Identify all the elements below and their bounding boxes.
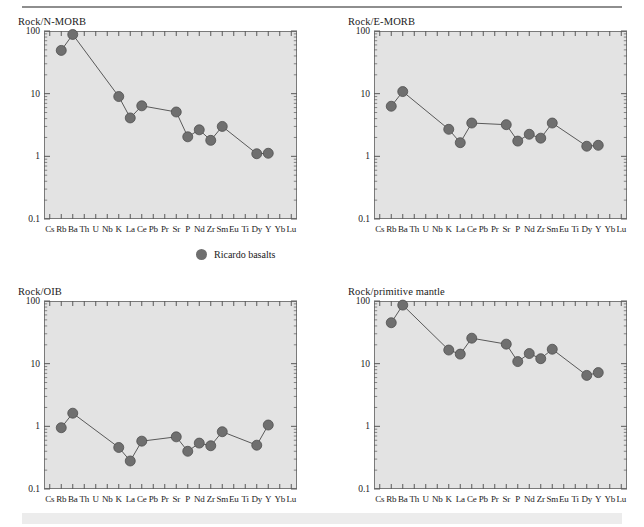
x-tick-label: Dy	[251, 494, 262, 504]
x-tick-label: Ba	[398, 494, 408, 504]
x-tick-label: La	[456, 224, 465, 234]
x-tick-label: Pb	[149, 224, 158, 234]
x-tick-label: Y	[595, 224, 601, 234]
x-tick-label: Cs	[375, 224, 384, 234]
x-tick-label: Yb	[274, 494, 285, 504]
x-tick-label: Pr	[161, 494, 169, 504]
x-tick-label: La	[456, 494, 465, 504]
data-point	[524, 349, 534, 359]
data-point	[501, 120, 511, 130]
legend-label: Ricardo basalts	[214, 249, 275, 260]
x-tick-label: Eu	[229, 494, 239, 504]
series-line	[61, 413, 268, 461]
x-tick-label: K	[446, 494, 452, 504]
x-tick-label: Zr	[537, 494, 545, 504]
data-point	[114, 442, 124, 452]
x-tick-label: Nb	[102, 224, 113, 234]
plot-canvas	[374, 301, 629, 491]
x-tick-label: Rb	[56, 494, 66, 504]
x-tick-label: La	[126, 224, 135, 234]
figure-legend: Ricardo basalts	[196, 249, 275, 260]
data-point	[68, 408, 78, 418]
x-tick-label: Lu	[286, 494, 296, 504]
y-tick-label: 10	[361, 89, 371, 99]
x-tick-label: Ce	[137, 494, 147, 504]
x-tick-label: Rb	[386, 224, 396, 234]
x-tick-label: Lu	[286, 224, 296, 234]
data-point	[56, 423, 66, 433]
data-point	[444, 124, 454, 134]
x-tick-label: Pr	[491, 224, 499, 234]
data-point	[593, 140, 603, 150]
x-tick-label: Sr	[172, 224, 180, 234]
y-tick-label: 10	[31, 89, 41, 99]
x-tick-label: Yb	[604, 494, 615, 504]
x-tick-label: K	[116, 224, 122, 234]
data-point	[398, 87, 408, 97]
x-tick-label: Y	[595, 494, 601, 504]
x-tick-label: Sr	[502, 494, 510, 504]
y-tick-label: 100	[356, 296, 370, 306]
x-tick-label: Nd	[194, 494, 205, 504]
data-point	[171, 432, 181, 442]
data-point	[467, 333, 477, 343]
x-tick-label: Ba	[398, 224, 408, 234]
x-tick-label: Rb	[56, 224, 66, 234]
data-point	[114, 92, 124, 102]
x-tick-label: Sr	[172, 494, 180, 504]
x-tick-label: Pr	[491, 494, 499, 504]
y-tick-label: 1	[35, 421, 40, 431]
footer-band	[22, 513, 622, 524]
x-tick-label: U	[93, 224, 99, 234]
data-point	[582, 370, 592, 380]
data-point	[68, 29, 78, 39]
data-point	[125, 113, 135, 123]
x-tick-label: P	[185, 494, 190, 504]
x-tick-label: Ti	[242, 224, 249, 234]
data-point	[183, 446, 193, 456]
data-point	[386, 318, 396, 328]
plot-canvas	[44, 31, 299, 221]
data-point	[263, 148, 273, 158]
x-tick-label: Y	[265, 494, 271, 504]
x-axis-labels: CsRbBaThUNbKLaCePbPrSrPNdZrSmEuTiDyYYbLu	[44, 494, 297, 508]
x-tick-label: Ce	[467, 494, 477, 504]
data-point	[217, 121, 227, 131]
plot-canvas	[44, 301, 299, 491]
data-point	[536, 354, 546, 364]
x-tick-label: Dy	[581, 224, 592, 234]
data-point	[513, 357, 523, 367]
x-tick-label: Pr	[161, 224, 169, 234]
y-tick-label: 0.1	[28, 484, 40, 494]
x-tick-label: La	[126, 494, 135, 504]
y-tick-label: 100	[26, 296, 40, 306]
data-point	[398, 300, 408, 310]
x-tick-label: Zr	[207, 224, 215, 234]
x-tick-label: P	[185, 224, 190, 234]
x-tick-label: Ce	[467, 224, 477, 234]
data-point	[194, 125, 204, 135]
data-point	[125, 456, 135, 466]
y-tick-label: 1	[365, 421, 370, 431]
x-tick-label: U	[93, 494, 99, 504]
series-line	[391, 92, 598, 147]
x-tick-label: Nb	[102, 494, 113, 504]
data-point	[386, 101, 396, 111]
data-point	[137, 101, 147, 111]
x-tick-label: Sm	[546, 494, 558, 504]
x-tick-label: Pb	[479, 224, 488, 234]
x-tick-label: Ti	[572, 494, 579, 504]
y-tick-label: 1	[35, 151, 40, 161]
x-tick-label: Y	[265, 224, 271, 234]
x-tick-label: K	[446, 224, 452, 234]
series-line	[61, 34, 268, 153]
x-tick-label: Zr	[207, 494, 215, 504]
data-point	[252, 149, 262, 159]
x-tick-label: Nd	[524, 494, 535, 504]
x-tick-label: Eu	[229, 224, 239, 234]
data-point	[252, 440, 262, 450]
x-tick-label: Ba	[68, 224, 78, 234]
y-tick-label: 1	[365, 151, 370, 161]
data-point	[137, 436, 147, 446]
x-tick-label: Pb	[479, 494, 488, 504]
